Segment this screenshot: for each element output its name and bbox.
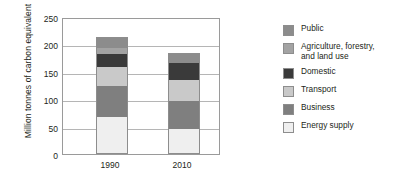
legend-item[interactable]: Public (283, 24, 395, 36)
y-tick-200: 200 (14, 42, 58, 51)
y-tick-0: 0 (14, 152, 58, 161)
legend-item-label: Domestic (301, 67, 336, 77)
legend-item-label: Agriculture, forestry, and land use (301, 42, 375, 61)
bar-1990[interactable] (96, 37, 128, 154)
y-tick-100: 100 (14, 97, 58, 106)
bar-segment-1990-domestic[interactable] (97, 54, 127, 67)
y-tick-50: 50 (14, 125, 58, 134)
legend-swatch-icon (283, 43, 294, 54)
y-tick-150: 150 (14, 70, 58, 79)
y-tick-250: 250 (14, 15, 58, 24)
legend-swatch-icon (283, 86, 294, 97)
bar-segment-2010-public[interactable] (169, 54, 199, 62)
legend-item[interactable]: Transport (283, 85, 395, 97)
legend-item[interactable]: Business (283, 103, 395, 115)
legend-item-label: Energy supply (301, 121, 354, 131)
legend-swatch-icon (283, 68, 294, 79)
x-label-1990: 1990 (80, 160, 140, 170)
legend-item-label: Business (301, 103, 335, 113)
legend-swatch-icon (283, 122, 294, 133)
legend-swatch-icon (283, 104, 294, 115)
bar-segment-2010-domestic[interactable] (169, 63, 199, 81)
legend-item-label: Transport (301, 85, 336, 95)
bar-segment-1990-energy-supply[interactable] (97, 117, 127, 153)
legend-item[interactable]: Agriculture, forestry, and land use (283, 42, 395, 61)
legend-swatch-icon (283, 25, 294, 36)
x-label-2010: 2010 (152, 160, 212, 170)
chart-container: Million tonnes of carbon equivalent 250 … (0, 0, 395, 189)
x-axis-tick-labels: 1990 2010 (62, 160, 220, 174)
bar-segment-2010-energy-supply[interactable] (169, 129, 199, 153)
bar-segment-1990-transport[interactable] (97, 67, 127, 86)
gridline-200 (63, 46, 219, 47)
legend-item-label: Public (301, 24, 324, 34)
bar-segment-2010-business[interactable] (169, 101, 199, 129)
bar-segment-1990-business[interactable] (97, 86, 127, 117)
bar-2010[interactable] (168, 53, 200, 154)
legend-item[interactable]: Energy supply (283, 121, 395, 133)
plot-area (62, 18, 220, 155)
legend-item[interactable]: Domestic (283, 67, 395, 79)
y-axis-tick-labels: 250 200 150 100 50 0 (0, 0, 58, 137)
bar-segment-2010-transport[interactable] (169, 80, 199, 101)
chart-legend: PublicAgriculture, forestry, and land us… (283, 24, 395, 139)
bar-segment-1990-public[interactable] (97, 38, 127, 48)
